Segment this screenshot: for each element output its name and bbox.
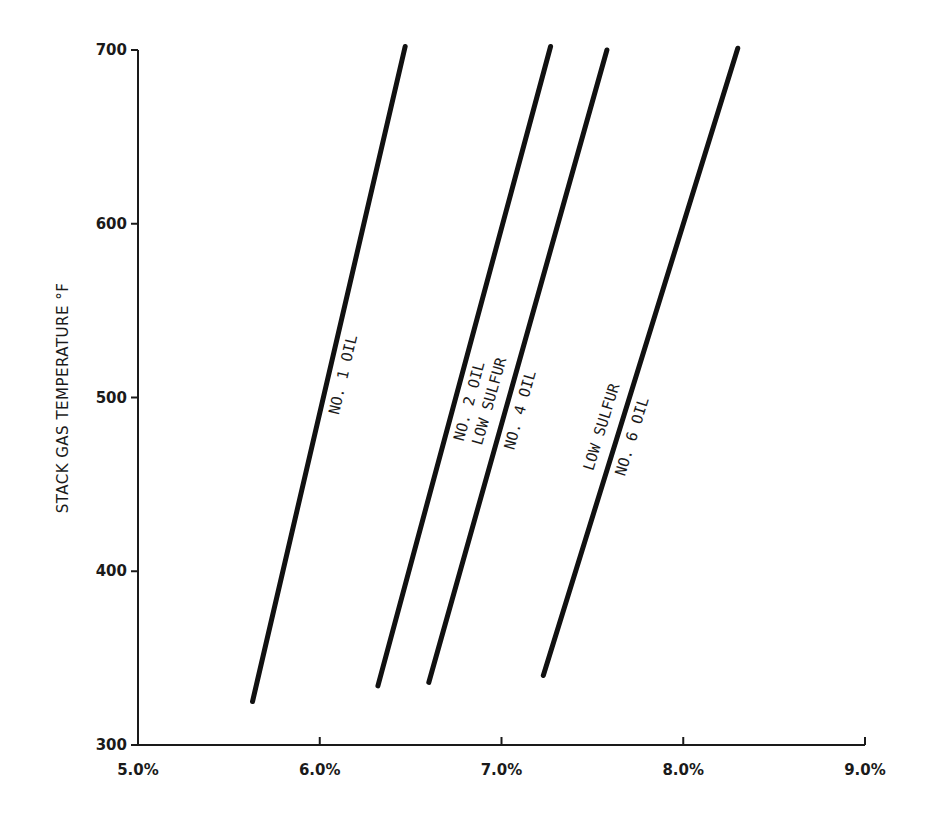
series-line-1 — [253, 47, 406, 702]
series-labels: NO. 1 OILNO. 2 OILNO. 4 OILLOW SULFURNO.… — [325, 333, 653, 478]
x-tick-label: 6.0% — [299, 761, 341, 779]
series-line-3 — [429, 50, 607, 682]
y-axis-title: STACK GAS TEMPERATURE °F — [54, 283, 72, 514]
y-tick-label: 600 — [96, 215, 127, 233]
y-tick-label: 500 — [96, 389, 127, 407]
series-line-4 — [543, 48, 737, 675]
y-tick-label: 400 — [96, 562, 127, 580]
x-tick-label: 8.0% — [662, 761, 704, 779]
series-line-2 — [378, 47, 551, 686]
x-tick-label: 5.0% — [117, 761, 159, 779]
x-tick-label: 9.0% — [844, 761, 886, 779]
y-tick-label: 700 — [96, 41, 127, 59]
x-tick-label: 7.0% — [481, 761, 523, 779]
y-tick-label: 300 — [96, 736, 127, 754]
chart: 5.0%6.0%7.0%8.0%9.0%300400500600700 NO. … — [0, 0, 929, 825]
